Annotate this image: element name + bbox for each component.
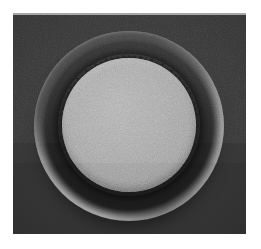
figure-title: Circular textured specimen with surround… — [0, 21, 1, 22]
figure-root: Circular textured specimen with surround… — [0, 0, 261, 249]
disc-granular-texture — [62, 58, 196, 192]
plate-top-edge — [13, 13, 246, 15]
inner-textured-disc — [62, 58, 196, 192]
image-plate — [13, 13, 246, 234]
